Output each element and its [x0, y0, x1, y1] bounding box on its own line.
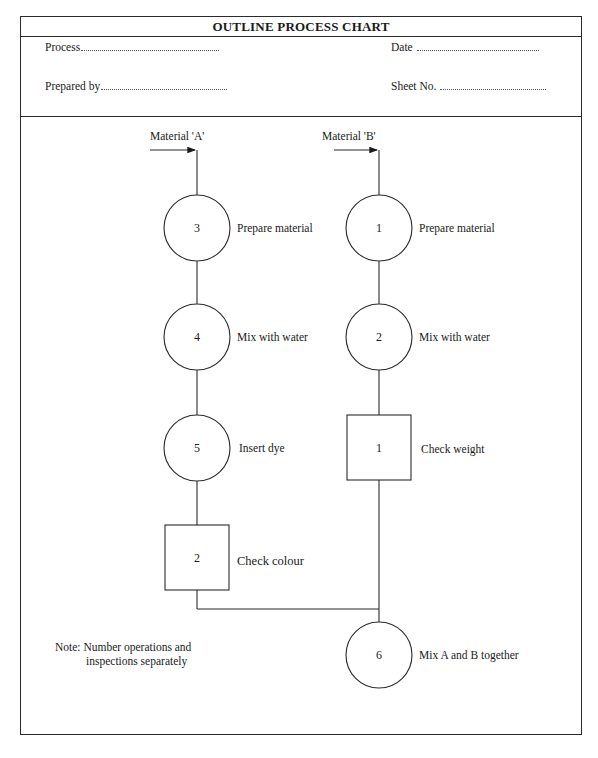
note-line-1: Note: Number operations and: [55, 641, 192, 654]
operation-b-2-label: Mix with water: [419, 331, 490, 343]
operation-b-1-label: Prepare material: [419, 222, 495, 235]
operation-6-number: 6: [376, 648, 382, 662]
operation-b-2-number: 2: [376, 330, 382, 344]
inspection-b-1-label: Check weight: [421, 443, 485, 456]
material-b-label: Material 'B': [322, 130, 376, 142]
inspection-a-2-number: 2: [194, 551, 200, 565]
operation-6-label: Mix A and B together: [419, 649, 519, 662]
operation-b-1-number: 1: [376, 221, 382, 235]
material-a-label: Material 'A': [150, 130, 204, 142]
operation-a-3-label: Prepare material: [237, 222, 313, 235]
inspection-b-1-number: 1: [376, 441, 382, 455]
flow-diagram: Material 'A' Material 'B' 3 Prepare mate…: [0, 0, 598, 758]
operation-a-3-number: 3: [194, 221, 200, 235]
operation-a-4-label: Mix with water: [237, 331, 308, 343]
note-line-2: inspections separately: [86, 655, 187, 668]
operation-a-4-number: 4: [194, 330, 200, 344]
inspection-a-2-label: Check colour: [237, 554, 305, 568]
operation-a-5-label: Insert dye: [239, 442, 285, 455]
operation-a-5-number: 5: [194, 441, 200, 455]
